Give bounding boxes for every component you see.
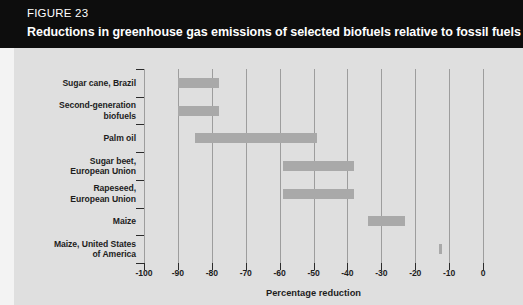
category-axis-labels: Sugar cane, BrazilSecond-generation biof… xyxy=(0,69,136,263)
figure-container: FIGURE 23 Reductions in greenhouse gas e… xyxy=(0,0,523,305)
x-axis-tick-label: -80 xyxy=(197,268,227,278)
category-label: Maize xyxy=(113,216,136,227)
x-axis-tick-label: -70 xyxy=(231,268,261,278)
chart-area: Sugar cane, BrazilSecond-generation biof… xyxy=(0,48,523,305)
bar xyxy=(178,78,219,88)
gridline xyxy=(381,69,382,263)
x-axis-tick-label: -10 xyxy=(434,268,464,278)
category-label: Second-generation biofuels xyxy=(59,100,136,121)
bar xyxy=(283,189,354,199)
category-axis-tick xyxy=(136,124,144,125)
plot-region: -100-90-80-70-60-50-40-30-20-100 xyxy=(144,69,483,263)
bar xyxy=(368,216,405,226)
x-axis-tick-label: 0 xyxy=(468,268,498,278)
gridline xyxy=(415,69,416,263)
gridline xyxy=(449,69,450,263)
category-axis-tick xyxy=(136,69,144,70)
figure-header: FIGURE 23 Reductions in greenhouse gas e… xyxy=(0,0,523,48)
x-axis-tick-label: -30 xyxy=(366,268,396,278)
x-axis-tick-label: -20 xyxy=(400,268,430,278)
x-axis-tick-label: -90 xyxy=(163,268,193,278)
category-label: Sugar beet, European Union xyxy=(70,156,136,177)
figure-title: Reductions in greenhouse gas emissions o… xyxy=(27,23,523,42)
x-axis-tick-label: -60 xyxy=(265,268,295,278)
category-label: Maize, United States of America xyxy=(54,239,136,260)
category-axis-tick xyxy=(136,180,144,181)
category-label: Palm oil xyxy=(103,133,136,144)
figure-number: FIGURE 23 xyxy=(27,5,523,21)
x-axis-tick-label: -40 xyxy=(332,268,362,278)
bar xyxy=(439,244,442,254)
bar xyxy=(195,133,317,143)
category-axis-tick xyxy=(136,97,144,98)
gridline xyxy=(212,69,213,263)
gridline xyxy=(246,69,247,263)
category-axis-tick xyxy=(136,235,144,236)
gridline xyxy=(280,69,281,263)
gridline xyxy=(144,69,145,263)
category-axis-tick xyxy=(136,208,144,209)
bar xyxy=(178,106,219,116)
gridline xyxy=(483,69,484,263)
category-axis-tick xyxy=(136,152,144,153)
category-label: Rapeseed, European Union xyxy=(70,183,136,204)
gridline xyxy=(178,69,179,263)
category-axis-tick xyxy=(136,263,144,264)
x-axis-title: Percentage reduction xyxy=(144,288,483,298)
bar xyxy=(283,161,354,171)
x-axis-tick-label: -50 xyxy=(299,268,329,278)
x-axis-tick-label: -100 xyxy=(129,268,159,278)
category-label: Sugar cane, Brazil xyxy=(62,78,136,89)
